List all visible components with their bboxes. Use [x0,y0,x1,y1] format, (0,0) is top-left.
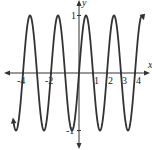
y-axis-down-arrow-icon [77,143,82,149]
y-tick-label-1: 1 [71,10,76,21]
sine-graph: x y 1 -1 -4-21234 [0,0,152,150]
x-axis-right-arrow-icon [144,71,150,76]
curve-left-arrow-icon [11,118,17,124]
x-tick-label: 4 [136,75,141,86]
x-axis-label: x [147,59,152,70]
y-axis-up-arrow-icon [77,0,82,6]
x-tick-label: -4 [17,75,25,86]
x-axis-left-arrow-icon [4,71,10,76]
y-axis-label: y [81,0,87,8]
x-tick-label: 2 [108,75,113,86]
x-axis: x [4,59,152,76]
curve-arrows [11,14,145,124]
x-tick-label: -2 [45,75,53,86]
